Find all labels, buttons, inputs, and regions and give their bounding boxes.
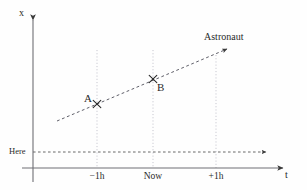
spacetime-diagram: x t Here −1h Now +1h A B Astronaut xyxy=(0,0,307,190)
y-axis-label: x xyxy=(19,8,24,18)
event-label-a: A xyxy=(84,93,92,104)
event-label-b: B xyxy=(157,82,164,93)
xtick-label-now: Now xyxy=(144,172,162,182)
astronaut-label: Astronaut xyxy=(204,32,243,42)
gridlines xyxy=(97,50,216,168)
xtick-label-plus-1h: +1h xyxy=(209,172,224,182)
diagram-canvas xyxy=(0,0,307,190)
astronaut-worldline xyxy=(57,49,227,121)
xtick-label-minus-1h: −1h xyxy=(90,172,105,182)
here-label: Here xyxy=(9,147,26,156)
x-axis-label: t xyxy=(285,170,288,180)
